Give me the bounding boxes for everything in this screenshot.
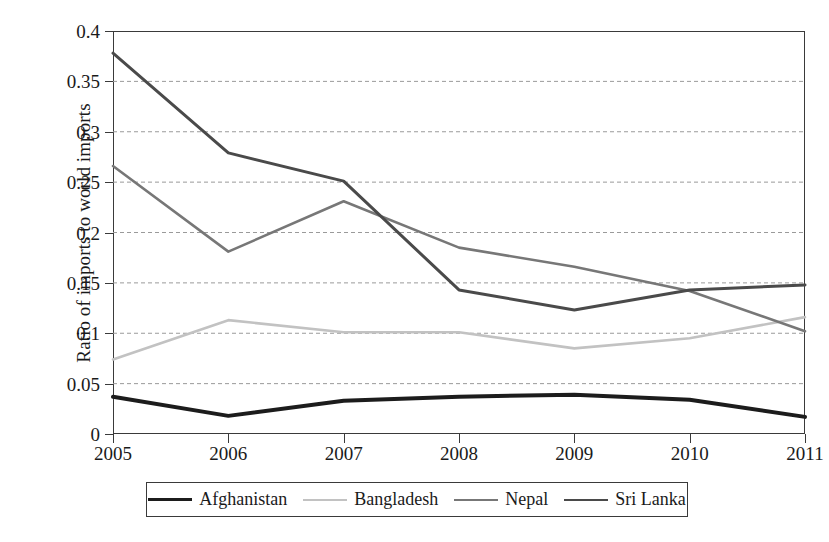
legend-item-bangladesh[interactable]: Bangladesh [295,489,446,510]
x-axis-tick-label: 2007 [304,443,384,465]
x-axis-tick-label: 2006 [188,443,268,465]
x-axis-tick-mark [344,434,345,443]
legend-swatch-icon [454,499,498,501]
legend-label: Bangladesh [354,489,438,510]
series-line-nepal [113,166,805,331]
x-axis-tick-mark [113,434,114,443]
x-axis-tick-mark [805,434,806,443]
legend-swatch-icon [564,499,608,501]
x-axis-tick-mark [228,434,229,443]
legend-label: Afghanistan [199,489,287,510]
legend-label: Nepal [505,489,548,510]
x-axis-tick-label: 2010 [650,443,730,465]
series-line-bangladesh [113,317,805,359]
x-axis-tick-label: 2009 [534,443,614,465]
legend-item-nepal[interactable]: Nepal [446,489,556,510]
x-axis-tick-label: 2011 [765,443,829,465]
legend-item-afghanistan[interactable]: Afghanistan [140,489,295,510]
legend-label: Sri Lanka [615,489,685,510]
plot-area [113,31,805,434]
x-axis-tick-label: 2005 [73,443,153,465]
series-canvas [113,31,805,434]
legend-item-sri-lanka[interactable]: Sri Lanka [556,489,693,510]
x-axis-tick-mark [459,434,460,443]
legend-swatch-icon [303,499,347,501]
x-axis-tick-mark [690,434,691,443]
line-chart-figure: Ratio of imports to world imports 00.050… [0,0,829,542]
chart-legend: AfghanistanBangladeshNepalSri Lanka [146,482,688,517]
legend-swatch-icon [148,498,192,501]
x-axis-tick-label: 2008 [419,443,499,465]
series-line-sri-lanka [113,53,805,310]
series-line-afghanistan [113,395,805,417]
x-axis-tick-mark [574,434,575,443]
